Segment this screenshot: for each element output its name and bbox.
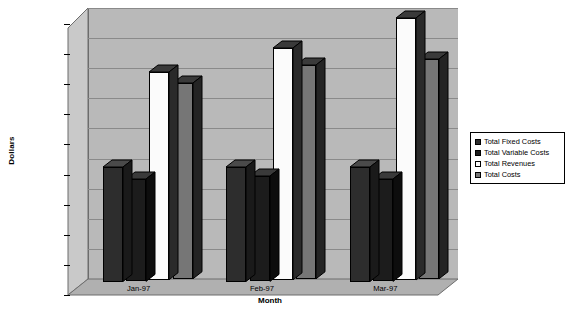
legend-item-label: Total Fixed Costs xyxy=(484,137,541,146)
legend-item-label: Total Variable Costs xyxy=(484,148,549,157)
gridline xyxy=(88,8,458,9)
legend-item-label: Total Costs xyxy=(484,170,521,179)
legend-item[interactable]: Total Variable Costs xyxy=(475,147,561,158)
legend-swatch-icon xyxy=(475,150,481,156)
x-axis-tick-label: Feb-97 xyxy=(217,284,307,293)
y-axis-title: Dollars xyxy=(7,121,16,181)
bar xyxy=(103,167,123,281)
chart-legend: Total Fixed CostsTotal Variable CostsTot… xyxy=(470,132,565,184)
legend-item[interactable]: Total Revenues xyxy=(475,158,561,169)
x-axis-title: Month xyxy=(190,296,350,305)
x-axis-tick-label: Jan-97 xyxy=(94,284,184,293)
bar-3d-faces xyxy=(103,160,134,283)
bar-3d-faces xyxy=(350,160,381,283)
bar xyxy=(350,167,370,281)
legend-item[interactable]: Total Costs xyxy=(475,169,561,180)
bar-chart: $0.00$5,000.00$10,000.00$15,000.00$20,00… xyxy=(0,0,567,312)
bar-3d-faces xyxy=(226,160,257,283)
bar xyxy=(226,167,246,281)
legend-item-label: Total Revenues xyxy=(484,159,535,168)
legend-item[interactable]: Total Fixed Costs xyxy=(475,136,561,147)
legend-swatch-icon xyxy=(475,172,481,178)
legend-swatch-icon xyxy=(475,139,481,145)
legend-swatch-icon xyxy=(475,161,481,167)
x-axis-tick-label: Mar-97 xyxy=(340,284,430,293)
